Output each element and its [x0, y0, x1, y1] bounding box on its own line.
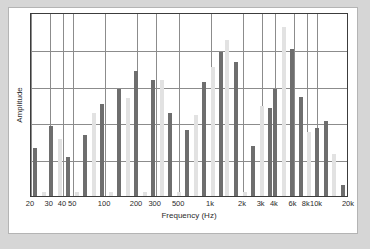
bar — [243, 192, 247, 196]
bar — [151, 80, 155, 196]
bar — [194, 115, 198, 196]
bar — [219, 52, 223, 196]
x-tick-label: 4k — [270, 199, 278, 209]
gridline-vertical — [73, 14, 74, 196]
bar — [234, 62, 238, 196]
bar — [168, 113, 172, 196]
x-tick-label: 40 — [58, 199, 66, 209]
x-axis-title: Frequency (Hz) — [30, 211, 348, 220]
bar — [332, 154, 336, 196]
bar — [109, 192, 113, 196]
x-tick-label: 20 — [26, 199, 34, 209]
gridline-vertical — [63, 14, 64, 196]
x-tick-label: 3k — [257, 199, 265, 209]
bar — [268, 108, 272, 196]
bar — [134, 71, 138, 196]
page-background: 203040501002003005001k2k3k4k6k8k10k20k F… — [0, 0, 370, 249]
bar — [143, 192, 147, 196]
bar — [211, 67, 215, 196]
figure-card: 203040501002003005001k2k3k4k6k8k10k20k F… — [8, 7, 358, 234]
bar — [58, 139, 62, 196]
frequency-response-chart: 203040501002003005001k2k3k4k6k8k10k20k F… — [9, 8, 357, 233]
bar — [33, 148, 37, 196]
x-tick-label: 500 — [172, 199, 185, 209]
x-tick-label: 20k — [342, 199, 354, 209]
y-axis-title: Amplitude — [15, 87, 24, 123]
bar — [92, 113, 96, 196]
bar — [49, 126, 53, 196]
bar — [315, 128, 319, 196]
bar — [202, 82, 206, 196]
bar — [260, 106, 264, 196]
x-tick-label: 2k — [238, 199, 246, 209]
bar — [42, 192, 46, 196]
gridline-vertical — [156, 14, 157, 196]
x-tick-label: 1k — [206, 199, 214, 209]
x-tick-label: 8k — [302, 199, 310, 209]
bar — [290, 49, 294, 196]
gridline-horizontal — [31, 88, 347, 89]
bar — [83, 135, 87, 196]
bar — [341, 185, 345, 196]
gridline-vertical — [179, 14, 180, 196]
bar — [160, 80, 164, 196]
bar — [299, 97, 303, 196]
plot-area — [30, 13, 348, 197]
bar — [251, 146, 255, 196]
bar — [225, 40, 229, 196]
x-tick-label: 6k — [289, 199, 297, 209]
bar — [185, 130, 189, 196]
y-axis-title-wrapper: Amplitude — [12, 13, 26, 197]
gridline-horizontal — [31, 51, 347, 52]
gridline-vertical — [294, 14, 295, 196]
bar — [75, 192, 79, 196]
x-tick-label: 100 — [98, 199, 111, 209]
bar — [282, 27, 286, 196]
x-tick-label: 30 — [44, 199, 52, 209]
bar — [117, 89, 121, 196]
bar — [324, 121, 328, 196]
bar — [100, 104, 104, 196]
bar — [66, 157, 70, 196]
x-tick-label: 10k — [310, 199, 322, 209]
gridline-vertical — [105, 14, 106, 196]
x-tick-label: 50 — [68, 199, 76, 209]
x-tick-label: 200 — [130, 199, 143, 209]
bar — [177, 192, 181, 196]
bar — [126, 98, 130, 196]
gridline-vertical — [243, 14, 244, 196]
x-tick-label: 300 — [148, 199, 161, 209]
bar — [273, 89, 277, 196]
bar — [307, 132, 311, 196]
